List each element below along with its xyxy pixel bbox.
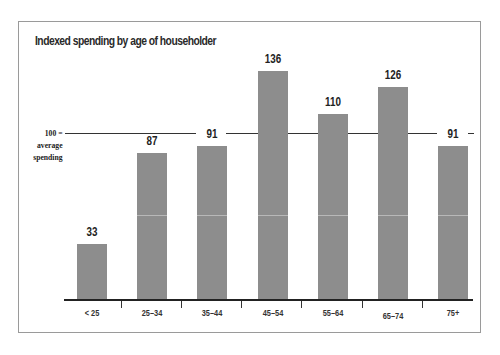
bar-75-plus bbox=[438, 146, 468, 299]
plot-area: 100 = average spending 33 87 91 136 110 … bbox=[0, 0, 500, 355]
x-axis-label: 35–44 bbox=[187, 308, 236, 318]
bar-under-25 bbox=[77, 244, 107, 299]
bar-gridline bbox=[438, 215, 468, 216]
x-axis-tick bbox=[301, 301, 302, 308]
x-axis-label: 45–54 bbox=[248, 308, 297, 318]
reference-label-average: average bbox=[34, 139, 63, 151]
value-label: 126 bbox=[377, 68, 410, 82]
x-axis-tick bbox=[241, 301, 242, 308]
x-axis-label: 55–64 bbox=[308, 308, 357, 318]
x-axis-label: < 25 bbox=[67, 308, 116, 318]
value-label: 110 bbox=[317, 95, 350, 109]
bar-gridline bbox=[137, 215, 167, 216]
x-axis-tick bbox=[362, 301, 363, 308]
bar-55-64 bbox=[318, 114, 348, 299]
x-axis-label: 25–34 bbox=[127, 308, 176, 318]
value-label: 33 bbox=[76, 225, 109, 239]
bar-65-74 bbox=[378, 87, 408, 299]
value-label: 91 bbox=[196, 127, 229, 141]
value-label: 87 bbox=[136, 134, 169, 148]
bar-45-54 bbox=[258, 71, 288, 299]
x-axis-tick bbox=[422, 301, 423, 308]
reference-label: 100 = average spending bbox=[34, 127, 63, 163]
value-label: 91 bbox=[437, 127, 470, 141]
bar-gridline bbox=[318, 215, 348, 216]
bar-gridline bbox=[197, 215, 227, 216]
x-axis-label: 75+ bbox=[428, 308, 477, 318]
bar-gridline bbox=[258, 215, 288, 216]
bar-25-34 bbox=[137, 153, 167, 299]
bar-gridline bbox=[378, 215, 408, 216]
x-axis bbox=[64, 299, 473, 301]
bar-35-44 bbox=[197, 146, 227, 299]
reference-label-value: 100 = bbox=[34, 127, 63, 139]
x-axis-label: 65–74 bbox=[368, 311, 417, 321]
reference-label-spending: spending bbox=[34, 151, 63, 163]
reference-line bbox=[65, 133, 196, 134]
x-axis-tick bbox=[121, 301, 122, 308]
value-label: 136 bbox=[257, 52, 290, 66]
x-axis-tick bbox=[181, 301, 182, 308]
